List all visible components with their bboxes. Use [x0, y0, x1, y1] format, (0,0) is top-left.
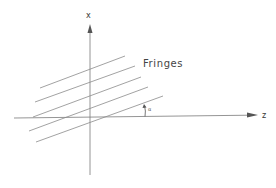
- angle-arrow-icon: [143, 104, 147, 108]
- z-axis-label: z: [262, 111, 266, 120]
- z-axis: [14, 115, 250, 118]
- fringes-label: Fringes: [143, 58, 183, 69]
- x-axis-label: x: [86, 11, 91, 20]
- x-axis-arrow-icon: [88, 24, 93, 33]
- fringe-line: [36, 96, 163, 142]
- fringe-diagram: [0, 0, 276, 188]
- fringe-line: [40, 56, 125, 88]
- angle-label: α: [148, 106, 151, 112]
- z-axis-arrow-icon: [247, 113, 258, 118]
- fringe-line: [29, 87, 148, 131]
